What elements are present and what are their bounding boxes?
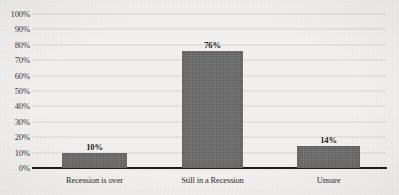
y-axis-tick-label: 20% — [0, 132, 30, 142]
y-axis-tick-label: 90% — [0, 24, 30, 34]
bar-recession-is-over[interactable] — [62, 153, 127, 168]
bar-still-in-a-recession[interactable] — [182, 51, 243, 168]
y-axis-tick-label: 0% — [0, 163, 30, 173]
y-axis-tick-label: 30% — [0, 117, 30, 127]
gridline — [32, 29, 386, 30]
gridline — [32, 14, 386, 15]
y-axis-tick-label: 40% — [0, 101, 30, 111]
bar-value-label: 76% — [182, 40, 243, 50]
bar-unsure[interactable] — [297, 146, 360, 168]
y-axis-tick-label: 80% — [0, 40, 30, 50]
y-axis-tick-label: 60% — [0, 71, 30, 81]
y-axis-tick-label: 10% — [0, 148, 30, 158]
bar-chart: 100% 90% 80% 70% 60% 50% 40% 30% 20% 10%… — [0, 0, 399, 195]
y-axis-tick-label: 50% — [0, 86, 30, 96]
y-axis-tick-label: 70% — [0, 55, 30, 65]
x-axis-category-label: Unsure — [274, 175, 383, 185]
y-axis-tick-label: 100% — [0, 9, 30, 19]
x-axis-category-label: Still in a Recession — [157, 175, 268, 185]
bar-value-label: 14% — [297, 135, 360, 145]
x-axis-category-label: Recession is over — [40, 175, 149, 185]
bar-value-label: 10% — [62, 142, 127, 152]
